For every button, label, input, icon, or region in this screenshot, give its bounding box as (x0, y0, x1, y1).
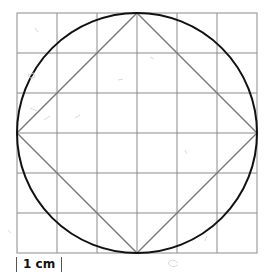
scale-bar: 1 cm (16, 256, 62, 272)
grid (17, 13, 257, 253)
scale-tick-right (61, 257, 62, 272)
scale-label: 1 cm (17, 257, 61, 271)
diagram-canvas (0, 0, 271, 276)
